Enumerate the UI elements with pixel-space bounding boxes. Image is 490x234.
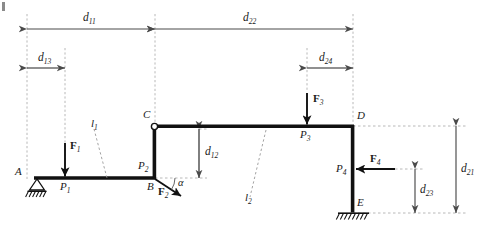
dimension-label-d21: d21 <box>461 163 474 175</box>
force-label-F4: F4 <box>370 153 380 164</box>
reference-line-label-l1: l1 <box>91 118 98 129</box>
node-label-E: E <box>357 197 364 208</box>
load-point-label-P4: P4 <box>336 163 346 174</box>
load-point-label-P3: P3 <box>300 129 310 140</box>
hinge-joint-C <box>151 123 157 129</box>
force-label-F1: F1 <box>70 140 80 151</box>
node-label-D: D <box>357 110 365 121</box>
load-point-label-P2: P2 <box>138 160 148 171</box>
angle-label-alpha: α <box>178 178 184 189</box>
load-point-label-P1: P1 <box>60 181 70 192</box>
reference-line-l2 <box>250 130 266 197</box>
dimension-label-d11: d11 <box>83 12 96 24</box>
extension-lines <box>27 14 353 180</box>
dimension-label-d23: d23 <box>420 184 433 196</box>
dimension-label-d22: d22 <box>243 12 256 24</box>
node-label-A: A <box>15 166 22 177</box>
angle-alpha-arc <box>172 178 176 190</box>
node-label-C: C <box>143 109 150 120</box>
node-label-B: B <box>147 181 154 192</box>
dimension-label-d24: d24 <box>319 52 332 64</box>
dimension-label-d13: d13 <box>38 52 51 64</box>
reference-line-l1 <box>94 129 107 178</box>
reference-line-label-l2: l2 <box>245 192 252 203</box>
structural-frame-figure: d11 d22 d13 d24 d12 d21 d23 A B C D E F1… <box>0 0 490 234</box>
force-label-F2: F2 <box>158 186 168 197</box>
force-label-F3: F3 <box>313 93 323 104</box>
support-A-pin <box>26 179 47 197</box>
support-E-fixed <box>336 213 369 219</box>
dimension-label-d12: d12 <box>205 146 218 158</box>
